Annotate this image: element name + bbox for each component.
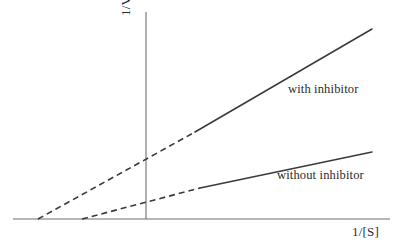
- series-label-without-inhibitor: without inhibitor: [277, 168, 364, 183]
- without-inhibitor-dashed-segment: [82, 188, 200, 219]
- plot-canvas: [0, 0, 404, 251]
- y-axis-label: 1/V: [118, 0, 134, 16]
- lineweaver-burk-figure: 1/V 1/[S] with inhibitor without inhibit…: [0, 0, 404, 251]
- x-axis-label: 1/[S]: [352, 224, 379, 240]
- with-inhibitor-solid-segment: [195, 29, 372, 132]
- with-inhibitor-dashed-segment: [38, 132, 195, 219]
- series-label-with-inhibitor: with inhibitor: [288, 82, 359, 97]
